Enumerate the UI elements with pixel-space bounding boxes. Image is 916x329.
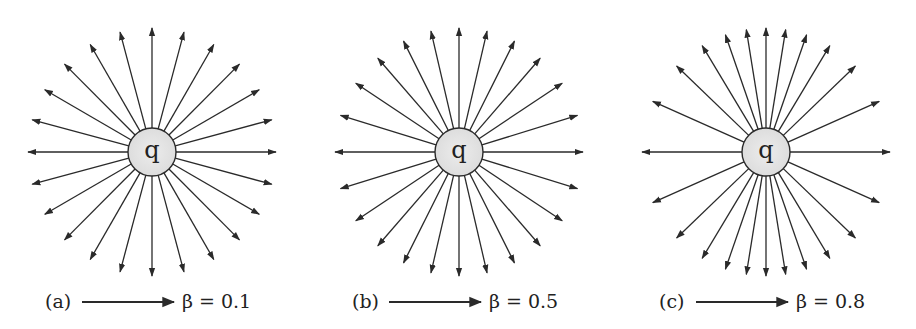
field-line bbox=[341, 115, 437, 145]
field-line bbox=[169, 64, 240, 135]
panel-a: q (a) β = 0.1 bbox=[28, 28, 276, 312]
panel-label-a: (a) bbox=[45, 290, 71, 312]
field-line bbox=[470, 41, 515, 130]
field-line bbox=[653, 162, 744, 203]
field-line bbox=[65, 64, 136, 135]
field-line bbox=[173, 90, 259, 140]
field-line bbox=[378, 58, 443, 134]
field-line bbox=[788, 162, 879, 203]
field-line bbox=[158, 175, 184, 272]
field-line bbox=[158, 32, 184, 129]
field-line bbox=[32, 120, 129, 146]
field-line bbox=[479, 83, 562, 138]
field-line bbox=[175, 120, 272, 146]
field-line bbox=[404, 173, 449, 262]
field-line bbox=[90, 44, 140, 131]
field-line bbox=[788, 101, 879, 142]
field-line bbox=[774, 35, 807, 129]
field-line bbox=[464, 175, 487, 272]
field-lines-figure: q (a) β = 0.1 q (b) β = 0.5 q (c) β = 0.… bbox=[0, 0, 916, 329]
field-line bbox=[431, 31, 454, 128]
field-line bbox=[175, 158, 272, 184]
charge-label-b: q bbox=[451, 136, 466, 164]
field-line bbox=[778, 46, 829, 132]
panel-c: q (c) β = 0.8 bbox=[642, 28, 890, 312]
field-line bbox=[404, 41, 449, 130]
field-line bbox=[464, 31, 487, 128]
field-line bbox=[356, 83, 439, 138]
field-line bbox=[475, 58, 540, 134]
field-line bbox=[482, 115, 578, 145]
field-line bbox=[770, 30, 786, 129]
field-line bbox=[778, 173, 829, 259]
field-line bbox=[470, 173, 515, 262]
beta-value-a: β = 0.1 bbox=[182, 290, 251, 312]
field-line bbox=[677, 66, 749, 135]
field-line bbox=[702, 46, 753, 132]
field-line bbox=[378, 170, 443, 246]
field-line bbox=[65, 169, 136, 240]
field-line bbox=[120, 32, 146, 129]
field-line bbox=[431, 175, 454, 272]
field-line bbox=[482, 159, 578, 189]
beta-value-b: β = 0.5 bbox=[489, 290, 558, 312]
field-line bbox=[774, 175, 807, 269]
charge-label-a: q bbox=[144, 136, 159, 164]
panel-b: q (b) β = 0.5 bbox=[335, 28, 583, 312]
field-line bbox=[746, 176, 762, 275]
field-line bbox=[783, 66, 855, 135]
field-line bbox=[173, 164, 259, 214]
field-line bbox=[725, 35, 758, 129]
field-line bbox=[702, 173, 753, 259]
field-line bbox=[770, 176, 786, 275]
field-line bbox=[164, 44, 214, 131]
field-line bbox=[475, 170, 540, 246]
field-line bbox=[45, 164, 131, 214]
field-line bbox=[746, 30, 762, 129]
field-line bbox=[32, 158, 129, 184]
field-line bbox=[783, 169, 855, 238]
field-line bbox=[479, 165, 562, 220]
field-line bbox=[341, 159, 437, 189]
field-line bbox=[356, 165, 439, 220]
beta-value-c: β = 0.8 bbox=[796, 290, 865, 312]
field-line bbox=[164, 173, 214, 260]
field-line bbox=[90, 173, 140, 260]
field-line bbox=[677, 169, 749, 238]
field-line bbox=[725, 175, 758, 269]
field-line bbox=[120, 175, 146, 272]
panel-label-b: (b) bbox=[352, 290, 379, 312]
panel-label-c: (c) bbox=[659, 290, 684, 312]
field-line bbox=[45, 90, 131, 140]
field-line bbox=[653, 101, 744, 142]
charge-label-c: q bbox=[758, 136, 773, 164]
field-line bbox=[169, 169, 240, 240]
